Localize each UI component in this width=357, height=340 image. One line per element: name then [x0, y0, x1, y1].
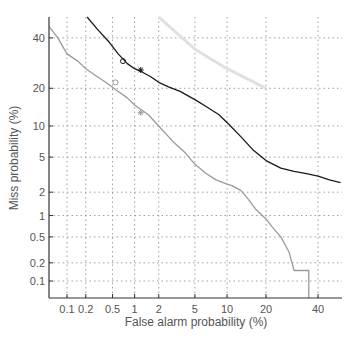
y-tick-label: 0.5 — [30, 231, 45, 243]
det-chart: 0.10.20.5125102040 0.10.20.5125102040 Fa… — [0, 0, 357, 340]
y-tick-label: 0.1 — [30, 275, 45, 287]
x-tick-label: 10 — [221, 303, 233, 315]
series-line-0 — [87, 17, 340, 183]
grid-lines — [49, 17, 342, 298]
x-tick-label: 20 — [260, 303, 272, 315]
y-axis-label: Miss probability (%) — [7, 106, 21, 211]
y-tick-label: 20 — [33, 82, 45, 94]
axes — [49, 17, 342, 298]
y-tick-label: 1 — [39, 210, 45, 222]
x-tick-label: 0.1 — [59, 303, 74, 315]
x-tick-label: 1 — [132, 303, 138, 315]
y-tick-label: 10 — [33, 120, 45, 132]
x-axis-label: False alarm probability (%) — [125, 315, 268, 329]
x-tick-label: 2 — [156, 303, 162, 315]
y-tick-label: 2 — [39, 186, 45, 198]
y-tick-label: 0.2 — [30, 257, 45, 269]
star-marker — [138, 110, 144, 116]
x-tick-label: 0.2 — [78, 303, 93, 315]
y-tick-labels: 0.10.20.5125102040 — [30, 32, 45, 287]
x-tick-label: 0.5 — [105, 303, 120, 315]
y-tick-label: 40 — [33, 32, 45, 44]
star-marker — [138, 67, 144, 73]
y-tick-label: 5 — [39, 151, 45, 163]
x-tick-label: 40 — [312, 303, 324, 315]
series-line-2 — [159, 17, 266, 88]
x-tick-label: 5 — [192, 303, 198, 315]
x-tick-labels: 0.10.20.5125102040 — [59, 303, 324, 315]
circle-marker — [113, 80, 118, 85]
